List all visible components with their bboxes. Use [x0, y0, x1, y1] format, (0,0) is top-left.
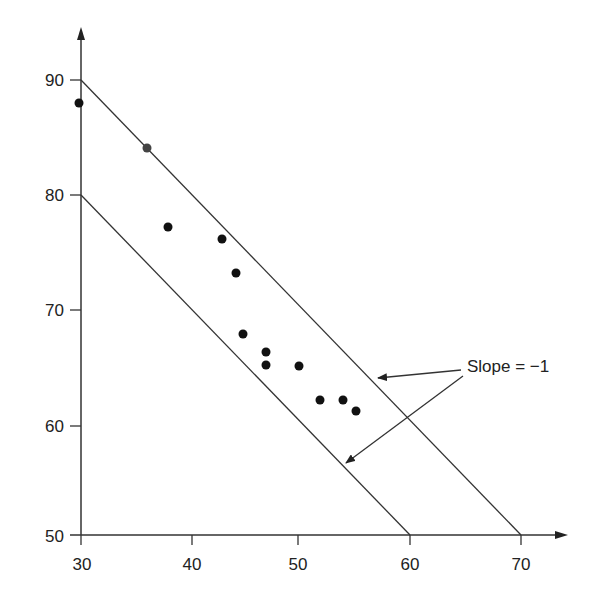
- data-point: [232, 269, 241, 278]
- y-ticks: 90 80 70 60 50: [45, 71, 81, 546]
- y-tick-80: 80: [45, 186, 64, 205]
- scatter-chart: 90 80 70 60 50 30 40 50 60 70 Slope: [0, 0, 603, 595]
- x-tick-40: 40: [183, 555, 202, 574]
- x-tick-50: 50: [289, 555, 308, 574]
- data-point: [143, 144, 152, 153]
- arrow-upper-icon: [378, 370, 461, 378]
- x-axis-arrow-icon: [555, 531, 568, 539]
- data-point: [218, 235, 227, 244]
- data-points: [75, 99, 361, 416]
- x-tick-70: 70: [512, 555, 531, 574]
- y-tick-50: 50: [45, 527, 64, 546]
- slope-label: Slope = −1: [467, 357, 549, 376]
- data-point: [164, 223, 173, 232]
- x-tick-60: 60: [401, 555, 420, 574]
- slope-annotation: Slope = −1: [346, 357, 549, 463]
- data-point: [75, 99, 84, 108]
- lower-bound-line: [81, 195, 410, 535]
- x-tick-30: 30: [73, 555, 92, 574]
- y-tick-60: 60: [45, 417, 64, 436]
- data-point: [239, 330, 248, 339]
- y-axis-arrow-icon: [77, 27, 85, 40]
- data-point: [295, 362, 304, 371]
- x-axis: [70, 531, 568, 539]
- arrow-lower-icon: [346, 376, 463, 463]
- data-point: [352, 407, 361, 416]
- x-ticks: 30 40 50 60 70: [73, 535, 531, 574]
- data-point: [262, 348, 271, 357]
- data-point: [262, 361, 271, 370]
- y-tick-70: 70: [45, 301, 64, 320]
- y-tick-90: 90: [45, 71, 64, 90]
- data-point: [339, 396, 348, 405]
- data-point: [316, 396, 325, 405]
